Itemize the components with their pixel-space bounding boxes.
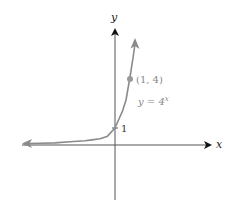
exponential-graph: y x 1 (1, 4) y = 4x [0,0,233,210]
y-axis-label: y [110,11,118,24]
exponential-curve [24,44,135,144]
intercept-label: 1 [121,123,127,134]
point-marker [127,76,133,82]
point-label: (1, 4) [136,74,163,85]
equation-base: y = 4 [137,96,165,107]
x-axis-label: x [216,138,223,151]
equation-exponent: x [165,95,169,103]
equation-label: y = 4x [137,95,169,107]
